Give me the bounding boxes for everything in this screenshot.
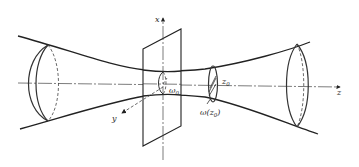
radius-label: ω(z0) bbox=[200, 108, 220, 118]
z-axis-label: z bbox=[336, 88, 342, 97]
z0-ellipse bbox=[209, 66, 218, 102]
right-wavefront bbox=[287, 44, 309, 127]
x-axis-label: x bbox=[155, 15, 160, 24]
z0-label: z0 bbox=[221, 77, 230, 87]
gaussian-beam-diagram: x y ω0 z0 ω(z0) bbox=[0, 0, 359, 167]
y-axis-label: y bbox=[111, 114, 117, 123]
radius-leader bbox=[207, 98, 211, 104]
